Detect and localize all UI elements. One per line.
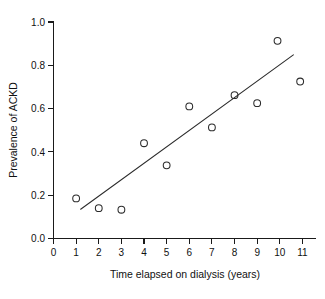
scatter-plot: 0.00.20.40.60.81.0 01234567891011 Time e…: [0, 0, 325, 299]
trendline: [81, 55, 294, 209]
data-point-marker: [141, 140, 148, 147]
data-point-marker: [118, 206, 125, 213]
data-point-marker: [95, 205, 102, 212]
data-point-marker: [254, 100, 261, 107]
y-tick-label: 0.2: [31, 190, 45, 201]
data-point-marker: [209, 124, 216, 131]
y-axis-ticks: 0.00.20.40.60.81.0: [31, 17, 53, 245]
x-tick-label: 1: [73, 247, 79, 258]
regression-line: [81, 55, 294, 209]
y-axis-title: Prevalence of ACKD: [7, 82, 19, 178]
data-point-marker: [274, 37, 281, 44]
x-tick-label: 10: [274, 247, 286, 258]
data-point-marker: [163, 162, 170, 169]
y-tick-label: 0.4: [31, 147, 45, 158]
x-tick-label: 6: [186, 247, 192, 258]
x-axis-ticks: 01234567891011: [51, 239, 308, 259]
x-tick-label: 3: [119, 247, 125, 258]
data-points: [73, 37, 304, 213]
x-tick-label: 2: [96, 247, 102, 258]
y-tick-label: 0.6: [31, 103, 45, 114]
x-tick-label: 4: [141, 247, 147, 258]
x-tick-label: 9: [254, 247, 260, 258]
data-point-marker: [186, 103, 193, 110]
x-tick-label: 5: [164, 247, 170, 258]
x-tick-label: 0: [51, 247, 57, 258]
x-axis-title: Time elapsed on dialysis (years): [110, 268, 260, 280]
data-point-marker: [73, 195, 80, 202]
y-tick-label: 1.0: [31, 17, 45, 28]
x-tick-label: 7: [209, 247, 215, 258]
x-tick-label: 8: [232, 247, 238, 258]
x-tick-label: 11: [297, 247, 308, 258]
y-tick-label: 0.0: [31, 233, 45, 244]
y-tick-label: 0.8: [31, 60, 45, 71]
data-point-marker: [297, 78, 304, 85]
chart-figure: 0.00.20.40.60.81.0 01234567891011 Time e…: [0, 0, 325, 299]
